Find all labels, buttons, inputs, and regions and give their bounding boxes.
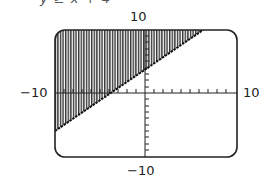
calculator-graph [0,0,264,180]
